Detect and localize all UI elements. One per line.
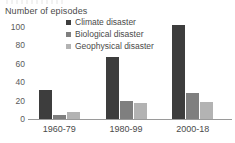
legend-item-label: Geophysical disaster (75, 41, 154, 51)
y-tick-label: 100 (11, 23, 25, 31)
clipped-text-artifact (6, 0, 66, 4)
y-axis-tick-labels: 020406080100 (0, 27, 28, 119)
bar (120, 101, 133, 119)
x-tick-label: 1960-79 (43, 124, 76, 134)
bar (200, 102, 213, 119)
x-axis-tick-labels: 1960-791980-992000-18 (30, 124, 230, 140)
x-tick-label: 2000-18 (176, 124, 209, 134)
bar (106, 57, 119, 119)
y-tick-label: 20 (16, 97, 25, 105)
legend-item-label: Biological disaster (75, 29, 144, 39)
bar (39, 90, 52, 119)
legend-swatch-icon (66, 20, 71, 25)
y-tick-label: 60 (16, 60, 25, 68)
bar (186, 93, 199, 119)
bar (134, 103, 147, 119)
x-tick-label: 1980-99 (109, 124, 142, 134)
bar (53, 115, 66, 119)
y-tick-label: 80 (16, 41, 25, 49)
y-tick-label: 40 (16, 78, 25, 86)
legend-item[interactable]: Geophysical disaster (66, 40, 186, 52)
legend-swatch-icon (66, 44, 71, 49)
y-tick-label: 0 (20, 115, 25, 123)
legend-item-label: Climate disaster (75, 17, 136, 27)
x-axis-line (28, 119, 232, 120)
chart-legend: Climate disasterBiological disasterGeoph… (66, 16, 186, 52)
y-axis-title: Number of episodes (5, 6, 87, 16)
legend-item[interactable]: Climate disaster (66, 16, 186, 28)
legend-item[interactable]: Biological disaster (66, 28, 186, 40)
legend-swatch-icon (66, 32, 71, 37)
bar (67, 112, 80, 119)
bar-chart: Number of episodes 020406080100 1960-791… (0, 0, 235, 143)
